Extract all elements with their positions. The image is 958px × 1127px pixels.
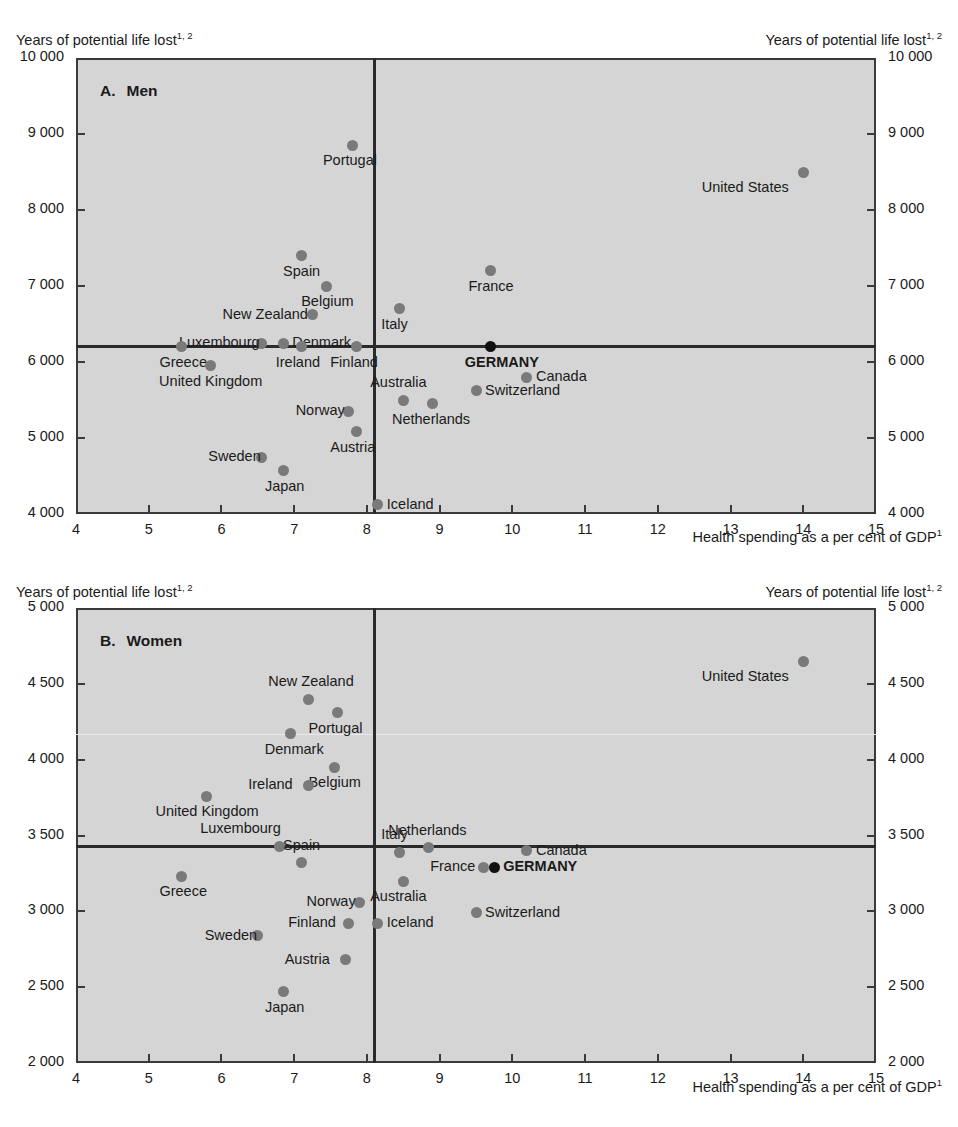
y-axis-tick xyxy=(76,209,85,211)
x-axis-tick xyxy=(366,505,368,514)
x-axis-tick-label: 6 xyxy=(191,521,251,537)
x-axis-title-men: Health spending as a per cent of GDP1 xyxy=(692,527,942,545)
data-point-japan xyxy=(278,465,289,476)
x-axis-tick xyxy=(511,505,513,514)
data-point-label-netherlands: Netherlands xyxy=(388,822,466,838)
y-axis-tick xyxy=(76,285,85,287)
y-axis-tick-right xyxy=(867,133,876,135)
x-axis-tick xyxy=(802,505,804,514)
data-point-label-canada: Canada xyxy=(536,842,587,858)
y-axis-title-left: Years of potential life lost1, 2 xyxy=(16,30,193,48)
x-axis-tick xyxy=(220,505,222,514)
data-point-label-greece: Greece xyxy=(159,883,207,899)
y-axis-tick-label-right: 3 000 xyxy=(888,901,958,917)
data-point-label-germany: GERMANY xyxy=(465,354,539,370)
data-point-belgium xyxy=(329,762,340,773)
data-point-united-states xyxy=(798,167,809,178)
y-axis-tick-label-right: 9 000 xyxy=(888,124,958,140)
y-axis-title-text: Years of potential life lost xyxy=(16,32,177,48)
data-point-new-zealand xyxy=(303,694,314,705)
data-point-label-portugal: Portugal xyxy=(308,720,362,736)
data-point-austria xyxy=(340,954,351,965)
panel-name: Women xyxy=(127,632,183,649)
x-axis-tick-label: 5 xyxy=(119,521,179,537)
x-axis-tick xyxy=(293,1054,295,1063)
y-axis-tick-label-right: 4 000 xyxy=(888,504,958,520)
x-axis-title-superscript: 1 xyxy=(937,527,942,538)
y-axis-tick-label-right: 8 000 xyxy=(888,200,958,216)
y-axis-tick-label-right: 3 500 xyxy=(888,826,958,842)
data-point-label-luxembourg: Luxembourg xyxy=(200,820,281,836)
y-axis-tick xyxy=(76,759,85,761)
chart-panel-women: Years of potential life lost1, 2 Years o… xyxy=(0,563,958,1127)
x-axis-tick xyxy=(730,1054,732,1063)
x-axis-tick xyxy=(584,1054,586,1063)
x-axis-tick-label: 6 xyxy=(191,1070,251,1086)
panel-letter: B. xyxy=(100,632,116,649)
y-axis-title-superscript: 1, 2 xyxy=(926,582,942,593)
x-axis-tick xyxy=(802,1054,804,1063)
y-axis-title-text: Years of potential life lost xyxy=(765,32,926,48)
data-point-label-norway: Norway xyxy=(307,893,356,909)
y-axis-title-superscript: 1, 2 xyxy=(926,30,942,41)
data-point-label-finland: Finland xyxy=(288,914,336,930)
x-axis-title-text: Health spending as a per cent of GDP xyxy=(692,529,936,545)
x-axis-tick-label: 9 xyxy=(410,521,470,537)
data-point-label-united-states: United States xyxy=(702,179,789,195)
y-axis-tick xyxy=(76,835,85,837)
data-point-austria xyxy=(351,426,362,437)
data-point-label-iceland: Iceland xyxy=(387,914,434,930)
y-axis-tick-label-right: 4 500 xyxy=(888,674,958,690)
data-point-switzerland xyxy=(471,907,482,918)
y-axis-tick-label: 3 000 xyxy=(0,901,64,917)
y-axis-title-superscript: 1, 2 xyxy=(177,582,193,593)
data-point-label-norway: Norway xyxy=(296,402,345,418)
y-axis-tick-label: 9 000 xyxy=(0,124,64,140)
data-point-label-austria: Austria xyxy=(330,439,375,455)
x-axis-title-superscript: 1 xyxy=(937,1077,942,1088)
y-axis-tick-label: 3 500 xyxy=(0,826,64,842)
data-point-portugal xyxy=(347,140,358,151)
y-axis-tick-label: 4 000 xyxy=(0,750,64,766)
x-axis-tick-label: 7 xyxy=(264,521,324,537)
data-point-label-ireland: Ireland xyxy=(276,354,320,370)
data-point-label-belgium: Belgium xyxy=(308,774,360,790)
x-axis-tick xyxy=(220,1054,222,1063)
y-axis-tick-label-right: 5 000 xyxy=(888,598,958,614)
y-axis-tick-right xyxy=(867,910,876,912)
x-axis-tick xyxy=(148,505,150,514)
x-axis-tick-label: 5 xyxy=(119,1070,179,1086)
x-axis-tick-label: 11 xyxy=(555,1070,615,1086)
data-point-label-united-states: United States xyxy=(702,668,789,684)
data-point-switzerland xyxy=(471,385,482,396)
data-point-spain xyxy=(296,250,307,261)
x-axis-tick xyxy=(657,505,659,514)
y-axis-tick-label: 10 000 xyxy=(0,48,64,64)
y-axis-tick xyxy=(76,683,85,685)
data-point-label-portugal: Portugal xyxy=(323,152,377,168)
x-axis-tick-label: 12 xyxy=(628,521,688,537)
data-point-label-iceland: Iceland xyxy=(387,496,434,512)
x-axis-tick xyxy=(511,1054,513,1063)
data-point-label-spain: Spain xyxy=(283,837,320,853)
y-axis-tick-label-right: 10 000 xyxy=(888,48,958,64)
y-axis-title-superscript: 1, 2 xyxy=(177,30,193,41)
data-point-label-australia: Australia xyxy=(370,374,426,390)
x-axis-tick xyxy=(584,505,586,514)
x-axis-title-women: Health spending as a per cent of GDP1 xyxy=(692,1077,942,1095)
x-axis-tick-label: 9 xyxy=(410,1070,470,1086)
data-point-france xyxy=(478,862,489,873)
data-point-denmark xyxy=(278,338,289,349)
data-point-label-switzerland: Switzerland xyxy=(485,904,560,920)
data-point-japan xyxy=(278,986,289,997)
data-point-finland xyxy=(351,341,362,352)
x-axis-tick-label: 8 xyxy=(337,521,397,537)
y-axis-tick-label: 2 500 xyxy=(0,977,64,993)
y-axis-tick-label: 2 000 xyxy=(0,1053,64,1069)
panel-letter: A. xyxy=(100,82,116,99)
data-point-greece xyxy=(176,871,187,882)
y-axis-tick xyxy=(76,910,85,912)
data-point-label-sweden: Sweden xyxy=(208,448,260,464)
data-point-belgium xyxy=(321,281,332,292)
panel-label-men: A.Men xyxy=(100,82,158,100)
